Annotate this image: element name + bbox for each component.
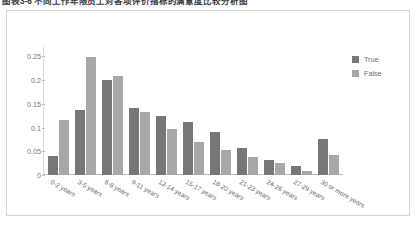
bar-true[interactable] [102, 80, 113, 175]
bar-group [210, 47, 232, 175]
legend-label: False [364, 69, 382, 78]
legend-item[interactable]: True [352, 55, 404, 64]
bar-true[interactable] [318, 139, 329, 175]
x-tick-label: 6-8 years [103, 178, 130, 198]
bar-true[interactable] [156, 116, 167, 175]
bar-true[interactable] [75, 110, 86, 175]
chart-frame: 00.050.10.150.20.25 0-2 years3-5 years6-… [6, 10, 410, 216]
bar-group [48, 47, 70, 175]
y-tick-label: 0.25 [27, 52, 41, 61]
bar-false[interactable] [113, 76, 124, 175]
y-tick-mark [42, 128, 45, 129]
bar-true[interactable] [48, 156, 59, 175]
legend-label: True [364, 55, 379, 64]
chart-legend: TrueFalse [352, 55, 404, 83]
x-tick-label: 0-2 years [49, 178, 76, 198]
bar-true[interactable] [129, 108, 140, 175]
bar-group [291, 47, 313, 175]
y-axis-line [43, 47, 44, 175]
y-tick-mark [42, 151, 45, 152]
bar-true[interactable] [237, 148, 248, 175]
legend-swatch-icon [352, 70, 359, 77]
bar-true[interactable] [210, 132, 221, 175]
y-tick-label: 0.2 [31, 76, 41, 85]
y-tick-mark [42, 80, 45, 81]
y-tick-label: 0.05 [27, 147, 41, 156]
bar-group [75, 47, 97, 175]
bar-false[interactable] [275, 163, 286, 175]
legend-swatch-icon [352, 56, 359, 63]
y-tick-mark [42, 104, 45, 105]
legend-item[interactable]: False [352, 69, 404, 78]
bar-false[interactable] [86, 57, 97, 175]
bar-group [129, 47, 151, 175]
y-tick-mark [42, 175, 45, 176]
y-tick-label: 0 [37, 171, 41, 180]
bar-false[interactable] [302, 171, 313, 175]
bar-true[interactable] [264, 160, 275, 175]
bar-false[interactable] [140, 112, 151, 175]
bar-true[interactable] [183, 122, 194, 175]
bar-group [183, 47, 205, 175]
bar-false[interactable] [329, 155, 340, 175]
bar-group [156, 47, 178, 175]
x-tick-label: 9-11 years [130, 178, 160, 199]
bar-false[interactable] [248, 157, 259, 175]
bar-false[interactable] [167, 129, 178, 175]
figure-caption: 图表3-6 不同工作年限员工对各项评价指标的满意度比较分析图 [2, 0, 248, 6]
x-tick-label: 3-5 years [76, 178, 103, 198]
bar-group [102, 47, 124, 175]
bar-true[interactable] [291, 166, 302, 175]
bar-false[interactable] [221, 150, 232, 175]
bar-false[interactable] [59, 120, 70, 175]
y-tick-label: 0.1 [31, 123, 41, 132]
y-tick-mark [42, 56, 45, 57]
x-tick-label: 30 or more years [319, 178, 366, 209]
figure-caption-strip: 图表3-6 不同工作年限员工对各项评价指标的满意度比较分析图 [0, 0, 416, 9]
bar-group [264, 47, 286, 175]
plot-area: 00.050.10.150.20.25 [45, 47, 342, 175]
bar-group [318, 47, 340, 175]
bar-false[interactable] [194, 142, 205, 175]
y-tick-label: 0.15 [27, 99, 41, 108]
bar-group [237, 47, 259, 175]
